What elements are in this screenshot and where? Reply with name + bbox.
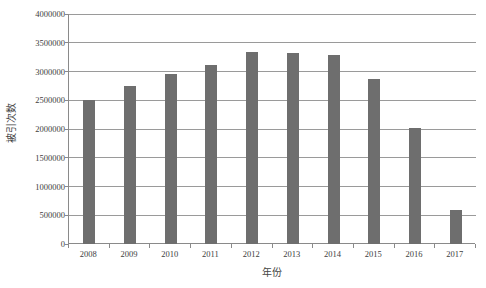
y-tick-label: 1500000 [18, 153, 65, 162]
y-axis-title: 被引次数 [0, 0, 20, 244]
x-axis-title: 年份 [68, 264, 475, 279]
x-tick-mark [434, 244, 435, 248]
x-tick-label-2009: 2009 [121, 249, 138, 260]
x-tick-label-2008: 2008 [80, 249, 97, 260]
x-tick-mark [394, 244, 395, 248]
bar-2010 [165, 74, 177, 244]
bar-2017 [450, 210, 462, 245]
y-tick-mark [65, 14, 69, 15]
bar-2008 [83, 100, 95, 244]
bar-2016 [409, 128, 421, 244]
x-tick-label-2012: 2012 [243, 249, 260, 260]
y-tick-mark [65, 71, 69, 72]
x-tick-mark [149, 244, 150, 248]
y-tick-label: 500000 [18, 211, 65, 220]
y-tick-label: 0 [18, 240, 65, 249]
y-tick-mark [65, 100, 69, 101]
y-tick-label: 2000000 [18, 125, 65, 134]
x-tick-mark [190, 244, 191, 248]
x-tick-mark [272, 244, 273, 248]
y-tick-mark [65, 215, 69, 216]
x-tick-label-2017: 2017 [446, 249, 463, 260]
bar-2013 [287, 53, 299, 244]
y-tick-label: 3000000 [18, 67, 65, 76]
y-tick-label: 3500000 [18, 38, 65, 47]
bars-layer [69, 14, 476, 244]
x-tick-label-2015: 2015 [365, 249, 382, 260]
bar-2014 [328, 55, 340, 244]
y-tick-mark [65, 42, 69, 43]
y-axis-tick-labels: 0500000100000015000002000000250000030000… [18, 0, 65, 288]
x-tick-label-2016: 2016 [405, 249, 422, 260]
bar-2015 [368, 79, 380, 244]
y-tick-mark [65, 157, 69, 158]
plot-area [68, 14, 475, 244]
x-tick-label-2011: 2011 [202, 249, 219, 260]
x-tick-mark [109, 244, 110, 248]
y-axis-title-label: 被引次数 [3, 102, 18, 142]
bar-2012 [246, 52, 258, 244]
y-tick-mark [65, 186, 69, 187]
x-tick-mark [231, 244, 232, 248]
y-tick-mark [65, 129, 69, 130]
x-tick-mark [312, 244, 313, 248]
x-tick-label-2010: 2010 [161, 249, 178, 260]
x-tick-label-2014: 2014 [324, 249, 341, 260]
y-tick-label: 1000000 [18, 182, 65, 191]
x-tick-label-2013: 2013 [283, 249, 300, 260]
bar-chart: 被引次数 05000001000000150000020000002500000… [0, 0, 486, 288]
x-axis-tick-labels: 2008200920102011201220132014201520162017 [68, 249, 475, 263]
bar-2009 [124, 86, 136, 244]
x-tick-mark [353, 244, 354, 248]
x-tick-mark [475, 244, 476, 248]
x-tick-mark [68, 244, 69, 248]
y-tick-label: 4000000 [18, 10, 65, 19]
bar-2011 [205, 65, 217, 244]
y-tick-label: 2500000 [18, 96, 65, 105]
